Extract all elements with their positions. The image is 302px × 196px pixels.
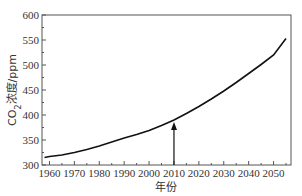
- x-tick-label: 1970: [63, 167, 86, 179]
- plot-frame: [42, 15, 291, 165]
- arrow-annotation: [171, 122, 177, 165]
- x-axis-ticks: 1960197019801990200020102020203020402050: [38, 161, 286, 179]
- y-tick-label: 500: [23, 59, 40, 71]
- x-tick-label: 2020: [188, 167, 211, 179]
- y-tick-label: 550: [23, 34, 40, 46]
- y-axis-title: CO2浓度/ppm: [5, 54, 23, 126]
- x-tick-label: 2050: [263, 167, 286, 179]
- co2-line-chart: 300350400450500550600 196019701980199020…: [0, 0, 302, 196]
- x-tick-label: 1960: [38, 167, 61, 179]
- x-tick-label: 2000: [138, 167, 161, 179]
- x-tick-label: 2040: [238, 167, 261, 179]
- x-tick-label: 2010: [163, 167, 186, 179]
- x-axis-title: 年份: [155, 180, 177, 194]
- y-tick-label: 300: [23, 159, 40, 171]
- x-tick-label: 1980: [88, 167, 111, 179]
- y-tick-label: 350: [23, 134, 40, 146]
- co2-series-line: [45, 39, 287, 158]
- y-tick-label: 600: [23, 9, 40, 21]
- x-tick-label: 2030: [213, 167, 236, 179]
- y-tick-label: 450: [23, 84, 40, 96]
- x-tick-label: 1990: [113, 167, 136, 179]
- y-tick-label: 400: [23, 109, 40, 121]
